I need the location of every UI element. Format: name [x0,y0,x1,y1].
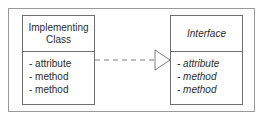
class-member: - method [177,83,242,96]
class-member: - method [29,83,94,96]
class-header-implementing-class: Implementing Class [23,16,94,52]
class-members-interface: - attribute - method - method [171,52,242,104]
class-members-implementing-class: - attribute - method - method [23,52,94,104]
hollow-triangle-arrowhead [155,50,170,70]
class-header-interface: Interface [171,16,242,52]
uml-diagram-canvas: Implementing Class - attribute - method … [0,0,265,124]
realization-connector [95,44,171,76]
class-member: - method [177,70,242,83]
class-member: - attribute [29,57,94,70]
uml-class-implementing-class[interactable]: Implementing Class - attribute - method … [22,15,95,105]
uml-class-interface[interactable]: Interface - attribute - method - method [170,15,243,105]
class-member: - method [29,70,94,83]
class-member: - attribute [177,57,242,70]
class-title-implementing-class: Implementing Class [26,22,91,46]
class-title-interface: Interface [187,28,226,40]
